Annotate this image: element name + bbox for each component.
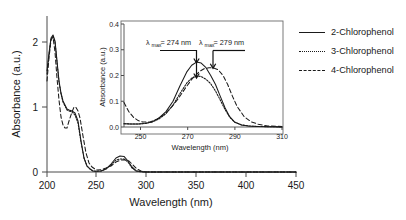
- legend-label-3-chlorophenol: 3-Chlorophenol: [331, 46, 394, 56]
- inset-y-ticklabel-01: 0.1: [109, 98, 119, 105]
- main-x-ticklabel-200: 200: [39, 180, 56, 191]
- lambda-value-274: = 274 nm: [161, 38, 192, 47]
- main-x-ticklabel-300: 300: [138, 180, 155, 191]
- main-x-axis-title: Wavelength (nm): [129, 196, 212, 208]
- main-x-ticklabel-350: 350: [188, 180, 205, 191]
- lambda-symbol-274: λ: [146, 38, 150, 47]
- legend-item-3-chlorophenol[interactable]: 3-Chlorophenol: [299, 41, 406, 60]
- main-x-ticklabel-250: 250: [88, 180, 105, 191]
- main-y-ticklabel-0: 0: [32, 167, 38, 178]
- inset-x-ticklabel-270: 270: [182, 133, 194, 140]
- inset-y-ticklabel-04: 0.4: [109, 21, 119, 28]
- lambda-symbol-279: λ: [199, 38, 203, 47]
- legend-label-4-chlorophenol: 4-Chlorophenol: [331, 65, 394, 75]
- legend-item-4-chlorophenol[interactable]: 4-Chlorophenol: [299, 60, 406, 79]
- lambda-value-279: = 279 nm: [214, 38, 245, 47]
- main-y-ticklabel-1: 1: [32, 102, 38, 113]
- line-dashed-icon: [299, 65, 325, 75]
- legend-label-2-chlorophenol: 2-Chlorophenol: [331, 27, 394, 37]
- main-y-axis-title: Absorbance (a.u.): [10, 50, 22, 137]
- main-y-ticklabel-2: 2: [32, 37, 38, 48]
- inset-y-axis-title: Absorbance (a.u.): [98, 47, 107, 107]
- inset-x-ticklabel-310: 310: [276, 133, 288, 140]
- uv-vis-absorbance-figure: 0 1 2 200 250 300 350 400 450 Wavelength…: [0, 0, 406, 220]
- main-x-ticklabel-450: 450: [288, 180, 305, 191]
- legend: 2-Chlorophenol 3-Chlorophenol 4-Chloroph…: [299, 22, 406, 79]
- main-x-ticklabel-400: 400: [238, 180, 255, 191]
- inset-x-ticklabel-290: 290: [229, 133, 241, 140]
- inset-y-ticklabel-02: 0.2: [109, 72, 119, 79]
- inset-x-ticklabel-250: 250: [135, 133, 147, 140]
- inset-panel: 0.0 0.1 0.2 0.3 0.4 250 270 290 310 Wave…: [98, 21, 288, 153]
- inset-x-axis-title: Wavelength (nm): [172, 143, 229, 152]
- legend-item-2-chlorophenol[interactable]: 2-Chlorophenol: [299, 22, 406, 41]
- line-dotted-icon: [299, 46, 325, 56]
- inset-y-ticklabel-03: 0.3: [109, 46, 119, 53]
- line-solid-icon: [299, 27, 325, 37]
- inset-y-ticklabel-00: 0.0: [109, 124, 119, 131]
